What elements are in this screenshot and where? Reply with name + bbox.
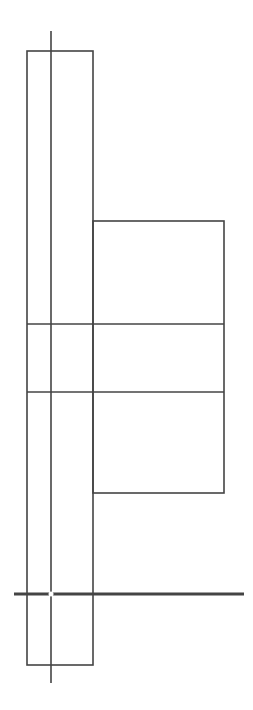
intersection-marker	[49, 592, 54, 597]
tall-rectangle	[27, 51, 93, 665]
right-box	[93, 221, 224, 493]
diagram-canvas	[0, 0, 253, 710]
